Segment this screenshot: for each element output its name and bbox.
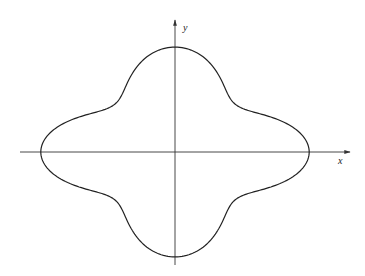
diagram-canvas: x y <box>0 0 365 276</box>
x-axis-label: x <box>337 155 343 166</box>
y-axis-label: y <box>182 22 188 33</box>
